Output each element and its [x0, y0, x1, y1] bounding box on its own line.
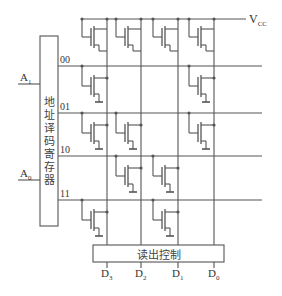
- input-a0-label: A0: [20, 168, 31, 182]
- load-transistor-d0: [187, 17, 214, 51]
- junction-dot: [212, 17, 215, 20]
- storage-transistor-01-d0: [187, 111, 215, 149]
- storage-transistor-10-d1: [151, 154, 179, 192]
- load-transistor-d1: [151, 17, 178, 51]
- storage-transistor-11-d1: [151, 198, 179, 236]
- junction-dot: [176, 17, 179, 20]
- row-label-11: 11: [60, 189, 70, 199]
- load-transistor-d2: [114, 17, 141, 51]
- storage-transistor-01-d2: [114, 111, 142, 149]
- input-a1-label: A1: [20, 72, 31, 86]
- load-transistor-d3: [80, 17, 107, 51]
- output-d3-label: D3: [101, 268, 112, 282]
- output-d2-label: D2: [135, 268, 146, 282]
- output-d0-label: D0: [208, 268, 219, 282]
- decoder-label: 地 址 译 码 寄 存 器: [42, 96, 56, 187]
- row-label-00: 00: [60, 55, 70, 65]
- readout-control-label: 读出控制: [93, 246, 224, 262]
- storage-transistor-00-d0: [187, 64, 215, 102]
- row-label-01: 01: [60, 102, 70, 112]
- storage-transistor-01-d3: [80, 111, 108, 149]
- vcc-label: VCC: [249, 13, 267, 28]
- storage-transistor-10-d2: [114, 154, 142, 192]
- storage-transistor-11-d3: [80, 198, 108, 236]
- output-d1-label: D1: [172, 268, 183, 282]
- row-label-10: 10: [60, 145, 70, 155]
- junction-dot: [105, 17, 108, 20]
- storage-transistor-00-d3: [80, 64, 108, 102]
- junction-dot: [139, 17, 142, 20]
